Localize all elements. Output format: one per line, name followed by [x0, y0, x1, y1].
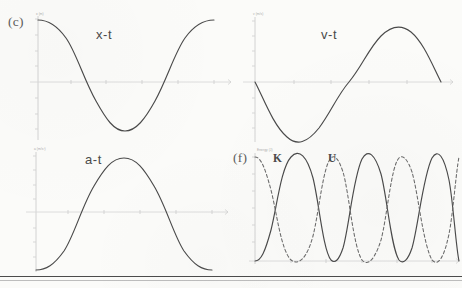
- panel-tag-c: (c): [8, 14, 24, 30]
- curve-label-U: U: [328, 152, 337, 164]
- plot-title-a-t: a-t: [85, 152, 102, 167]
- plot-panel-energy: (f) Energy (J) K U: [231, 144, 462, 288]
- plot-title-v-t: v-t: [321, 27, 337, 42]
- curve-label-K: K: [273, 152, 282, 164]
- y-axis-unit-v: v (m/s): [253, 12, 263, 16]
- plot-panel-v-t: v-t v (m/s): [231, 0, 462, 144]
- figure-page: (c) x-t x (m): [0, 0, 462, 288]
- curve-v-t: [255, 27, 441, 142]
- y-axis-unit-a: a (m/s²): [34, 147, 46, 151]
- plot-panel-a-t: a-t a (m/s²): [0, 144, 231, 288]
- y-axis-unit-energy: Energy (J): [257, 148, 273, 152]
- section-divider-secondary: [0, 280, 462, 281]
- plot-svg-energy: [231, 144, 462, 288]
- section-divider: [0, 276, 462, 277]
- curve-x-t: [38, 20, 214, 131]
- plot-title-x-t: x-t: [96, 27, 112, 42]
- y-axis-unit-x: x (m): [36, 12, 44, 16]
- plot-svg-a-t: [0, 144, 231, 288]
- curve-a-t: [36, 158, 212, 270]
- plot-svg-x-t: [0, 0, 231, 144]
- plot-panel-x-t: (c) x-t x (m): [0, 0, 231, 144]
- panel-tag-f: (f): [233, 150, 247, 166]
- plot-svg-v-t: [231, 0, 462, 144]
